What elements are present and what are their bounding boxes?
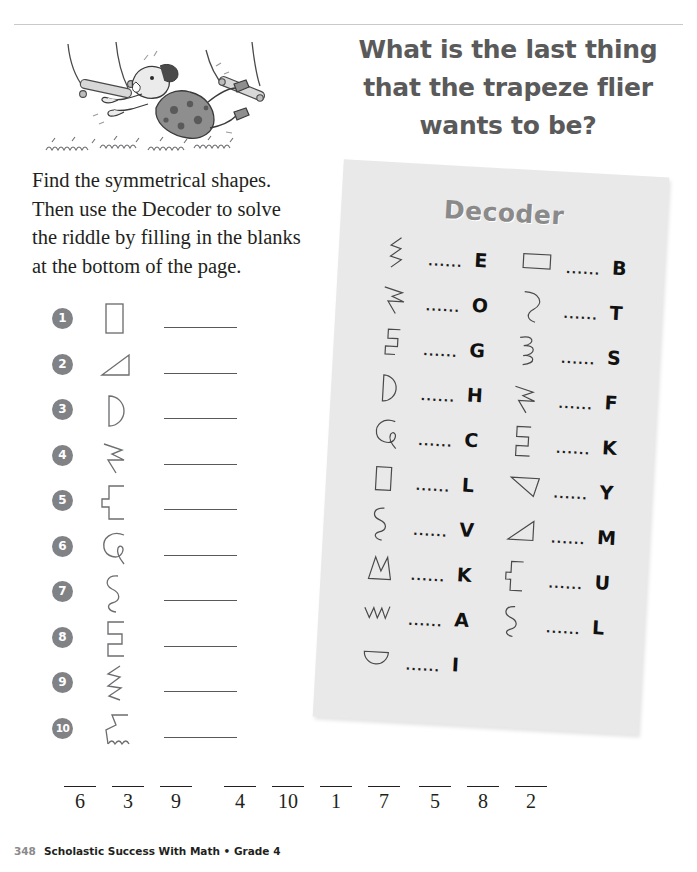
problem-row: 8 [52,619,297,665]
answer-group: 4 10 1 7 [220,786,412,811]
answer-slot[interactable]: 5 [415,786,455,811]
instructions: Find the symmetrical shapes. Then use th… [32,166,332,280]
decoder-letter: F [604,391,618,414]
decoder-right-column: ...... B ...... T [499,241,656,653]
decoder-entry: ...... G [376,324,513,376]
decoder-stepped-bracket-icon [502,556,546,600]
answer-slot-number: 3 [108,791,148,811]
decoder-dots: ...... [566,262,601,278]
decoder-s-wave-icon [366,503,410,547]
answer-blank[interactable] [164,600,237,601]
decoder-dots: ...... [405,659,440,675]
decoder-entry: ...... K [364,548,501,600]
answer-slot-number: 5 [415,791,455,811]
answer-slot[interactable]: 6 [60,786,100,811]
shape-half-circle-icon [94,389,148,435]
answer-blank[interactable] [164,464,237,465]
shape-step-with-squiggle-icon [94,708,148,754]
footer-page-number: 348 [14,845,36,857]
problem-row: 1 [52,300,297,346]
answer-slot[interactable]: 10 [268,786,308,811]
decoder-entry: ...... H [374,368,511,420]
page-footer: 348Scholastic Success With Math • Grade … [14,845,280,857]
instructions-line-1: Find the symmetrical shapes. [32,166,332,195]
decoder-entry: ...... F [511,376,648,428]
answer-slot-rule [224,786,256,787]
decoder-zigzag-arrow-icon [379,279,423,323]
decoder-letter: S [607,346,622,369]
answer-slot-number: 1 [316,791,356,811]
answer-blank[interactable] [164,509,237,510]
decoder-letter: V [459,518,475,541]
answer-blank[interactable] [164,737,237,738]
answer-slot[interactable]: 9 [156,786,196,811]
answer-slot[interactable]: 4 [220,786,260,811]
decoder-entry: ...... L [369,458,506,510]
answer-blank[interactable] [164,373,237,374]
answer-slot-rule [419,786,451,787]
decoder-zigzag-peak-icon [364,548,408,592]
decoder-s-wave-icon [499,601,543,645]
shape-hook-curve-icon [94,526,148,572]
decoder-dots: ...... [551,532,586,548]
problem-number-badge: 6 [52,536,73,557]
answer-blank[interactable] [164,646,237,647]
decoder-wide-rectangle-icon [519,241,563,285]
answer-slot[interactable]: 2 [511,786,551,811]
answer-slot-number: 9 [156,791,196,811]
answer-blank[interactable] [164,555,237,556]
shape-double-step-icon [94,617,148,663]
decoder-entry: ...... M [504,511,641,563]
problem-number-badge: 1 [52,308,73,329]
decoder-entry: ...... K [509,421,646,473]
shape-lightning-zigzag-icon [94,662,148,708]
decoder-half-circle-down-icon [359,638,403,682]
riddle-line-1: What is the last thing [326,31,690,69]
answer-blank[interactable] [164,418,237,419]
header-divider [14,24,683,25]
instructions-line-3: the riddle by filling in the blanks [32,223,332,252]
decoder-panel-wrapper: Decoder ...... E ... [316,158,666,738]
problem-number-badge: 5 [52,490,73,511]
answer-slot-rule [320,786,352,787]
answer-slot[interactable]: 1 [316,786,356,811]
decoder-entry: ...... V [366,503,503,555]
answer-slot[interactable]: 3 [108,786,148,811]
instructions-line-4: at the bottom of the page. [32,252,332,281]
decoder-dots: ...... [415,479,450,495]
decoder-letter: E [474,249,488,272]
answer-slot[interactable]: 7 [364,786,404,811]
decoder-right-triangle-up-icon [504,511,548,555]
answer-blank[interactable] [164,691,237,692]
shape-right-triangle-icon [94,344,148,390]
decoder-letter: B [612,257,628,280]
answer-slot-number: 6 [60,791,100,811]
decoder-half-circle-icon [374,368,418,412]
instructions-line-2: Then use the Decoder to solve [32,195,332,224]
decoder-dots: ...... [558,397,593,413]
decoder-letter: O [471,294,488,317]
decoder-letter: C [464,429,479,452]
decoder-dots: ...... [420,389,455,405]
answer-slot[interactable]: 8 [463,786,503,811]
problem-row: 10 [52,710,297,756]
decoder-letter: G [469,339,486,362]
decoder-entry: ...... U [501,556,638,608]
decoder-letter: Y [599,481,614,504]
answer-slot-rule [112,786,144,787]
problem-row: 3 [52,391,297,437]
trapeze-flier-illustration [38,36,278,158]
decoder-letter: M [597,526,617,549]
riddle-question: What is the last thing that the trapeze … [326,31,690,145]
answer-slot-rule [160,786,192,787]
decoder-letter: I [451,653,459,675]
decoder-letter: T [609,301,623,324]
shape-zigzag-arrow-icon [94,435,148,481]
decoder-entry: ...... B [519,241,656,293]
answer-bank: 6 3 9 4 10 1 [60,786,580,832]
answer-slot-number: 7 [364,791,404,811]
answer-group: 6 3 9 [60,786,204,811]
answer-blank[interactable] [164,327,237,328]
decoder-entry: ...... Y [506,466,643,518]
decoder-entry: ...... O [379,279,516,331]
